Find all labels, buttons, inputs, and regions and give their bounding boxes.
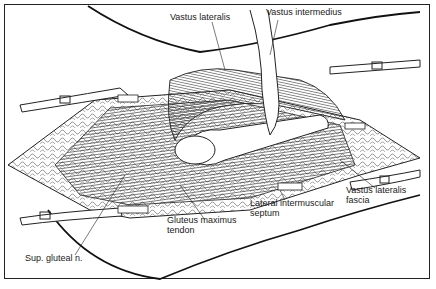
- label-gluteus-maximus-tendon: Gluteus maximus tendon: [167, 215, 237, 235]
- greater-trochanter: [175, 136, 215, 164]
- label-lateral-intermuscular-septum: Lateral intermuscular septum: [250, 198, 334, 218]
- anatomy-illustration: [0, 0, 436, 289]
- label-vastus-lateralis-fascia: Vastus lateralis fascia: [346, 185, 406, 205]
- label-sup-gluteal-n: Sup. gluteal n.: [25, 253, 83, 263]
- label-vastus-intermedius: Vastus intermedius: [266, 7, 342, 17]
- label-vastus-lateralis: Vastus lateralis: [170, 12, 230, 22]
